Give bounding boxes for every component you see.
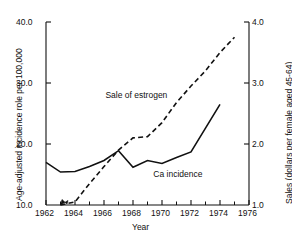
y-right-tick-label: 3.0 <box>252 78 264 88</box>
y-left-tick-label: 40.0 <box>16 17 33 27</box>
x-tick-label: 1968 <box>122 208 141 218</box>
y-left-tick-label: 10.0 <box>16 200 33 210</box>
x-tick-label: 1966 <box>93 208 112 218</box>
x-tick-label: 1974 <box>209 208 228 218</box>
left-axis-title: Age-adjusted incidence role per 100,000 <box>14 48 24 201</box>
x-tick-label: 1962 <box>35 208 54 218</box>
chart-axes <box>46 22 249 205</box>
x-tick-label: 1972 <box>180 208 199 218</box>
x-tick-label: 1964 <box>64 208 83 218</box>
x-axis-title: Year <box>132 222 149 232</box>
left-axis-ticks <box>46 22 51 144</box>
right-axis-ticks <box>244 22 249 144</box>
y-right-tick-label: 1.0 <box>252 200 264 210</box>
series-annotation-label: Sale of estrogen <box>105 90 167 100</box>
chart-series-lines <box>46 37 235 205</box>
series-line-sale-of-estrogen <box>61 37 235 205</box>
right-axis-title: Sales (dollars per female aged 45-64) <box>284 62 292 204</box>
chart-plot-area <box>0 0 292 237</box>
x-tick-label: 1970 <box>151 208 170 218</box>
y-right-tick-label: 2.0 <box>252 139 264 149</box>
series-annotation-label: Ca incidence <box>153 169 202 179</box>
y-right-tick-label: 4.0 <box>252 17 264 27</box>
x-tick-label: 1976 <box>238 208 257 218</box>
chart-figure: 19621964196619681970197219741976 10.020.… <box>0 0 292 237</box>
